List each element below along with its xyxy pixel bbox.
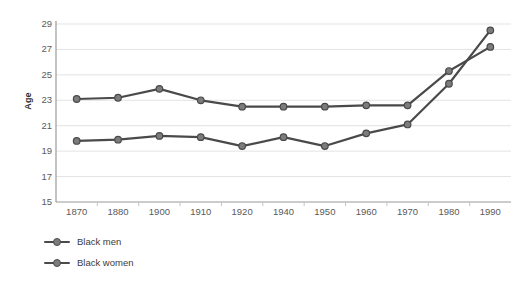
x-axis-tick-label: 1900 [139, 207, 179, 217]
data-point-marker [487, 27, 494, 34]
data-point-marker [239, 103, 246, 110]
series-line [77, 47, 491, 107]
data-point-marker [239, 143, 246, 150]
x-axis-tick-label: 1910 [181, 207, 221, 217]
data-point-marker [446, 80, 453, 87]
data-point-marker [404, 121, 411, 128]
x-axis-tick-label: 1950 [305, 207, 345, 217]
data-point-marker [280, 103, 287, 110]
x-axis-tick-label: 1960 [346, 207, 386, 217]
x-axis-tick-label: 1870 [57, 207, 97, 217]
data-point-marker [115, 136, 122, 143]
data-point-marker [115, 94, 122, 101]
legend-label: Black women [77, 258, 134, 268]
data-point-marker [404, 102, 411, 109]
x-axis-tick-label: 1990 [470, 207, 510, 217]
x-axis-tick-label: 1940 [264, 207, 304, 217]
data-point-marker [197, 134, 204, 141]
data-point-marker [73, 96, 80, 103]
legend-item[interactable]: Black men [44, 231, 344, 252]
line-chart: Age 1517192123252729 1870188019001910192… [0, 0, 520, 281]
x-axis-tick-label: 1880 [98, 207, 138, 217]
data-point-marker [322, 103, 329, 110]
x-axis-tick-label: 1970 [388, 207, 428, 217]
data-point-marker [156, 133, 163, 140]
data-point-marker [322, 143, 329, 150]
data-point-marker [487, 44, 494, 51]
data-point-marker [363, 102, 370, 109]
data-point-marker [73, 138, 80, 145]
legend-marker-icon [44, 257, 70, 269]
x-axis-tick-label: 1920 [222, 207, 262, 217]
x-axis-tick-label: 1980 [429, 207, 469, 217]
data-point-marker [197, 97, 204, 104]
chart-legend: Black menBlack women [44, 231, 344, 273]
data-point-marker [280, 134, 287, 141]
data-point-marker [156, 86, 163, 93]
legend-label: Black men [77, 237, 121, 247]
data-point-marker [363, 130, 370, 137]
data-point-marker [446, 68, 453, 75]
legend-marker-icon [44, 236, 70, 248]
legend-item[interactable]: Black women [44, 252, 344, 273]
